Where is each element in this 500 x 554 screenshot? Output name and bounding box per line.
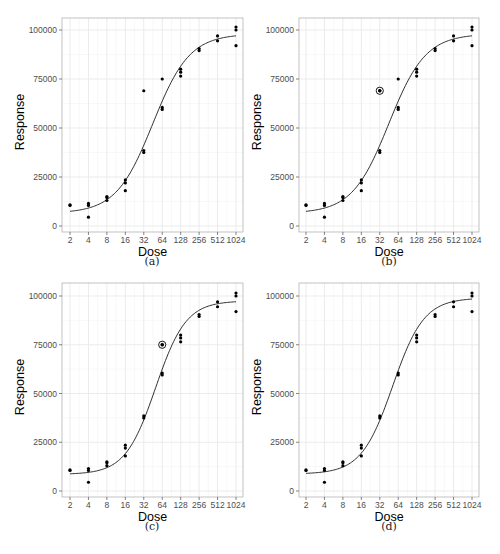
x-tick-label: 128 — [174, 500, 188, 510]
y-axis: 0250005000075000100000 — [266, 25, 299, 231]
x-tick-label: 4 — [322, 500, 327, 510]
x-tick-label: 256 — [192, 235, 206, 245]
data-point — [234, 291, 237, 294]
y-tick-label: 75000 — [33, 74, 57, 84]
data-point — [179, 74, 182, 77]
data-point — [360, 454, 363, 457]
data-point — [415, 336, 418, 339]
x-axis: 2481632641282565121024 — [304, 497, 482, 510]
data-point — [216, 34, 219, 37]
data-point — [415, 333, 418, 336]
y-tick-label: 75000 — [270, 340, 294, 350]
data-point — [378, 416, 381, 419]
data-point — [452, 39, 455, 42]
x-tick-label: 1024 — [227, 235, 246, 245]
x-tick-label: 128 — [174, 235, 188, 245]
data-point — [179, 333, 182, 336]
data-point — [124, 447, 127, 450]
x-tick-label: 16 — [357, 235, 367, 245]
y-tick-label: 50000 — [33, 123, 57, 133]
y-tick-label: 100000 — [29, 25, 58, 35]
data-point — [323, 204, 326, 207]
data-point — [124, 444, 127, 447]
y-tick-label: 100000 — [266, 25, 295, 35]
data-point — [68, 469, 71, 472]
x-tick-label: 16 — [121, 235, 131, 245]
data-point — [415, 74, 418, 77]
data-point — [105, 196, 108, 199]
data-point — [360, 189, 363, 192]
data-point — [87, 481, 90, 484]
data-point — [105, 464, 108, 467]
data-point — [198, 49, 201, 52]
data-point — [397, 108, 400, 111]
data-point — [105, 199, 108, 202]
x-tick-label: 1024 — [227, 500, 246, 510]
x-tick-label: 512 — [210, 235, 224, 245]
x-axis: 2481632641282565121024 — [304, 232, 482, 245]
data-point — [179, 68, 182, 71]
y-tick-label: 50000 — [270, 389, 294, 399]
data-point — [304, 204, 307, 207]
data-point — [470, 294, 473, 297]
data-point — [470, 25, 473, 28]
data-point — [452, 34, 455, 37]
data-point — [341, 464, 344, 467]
plot-c: 0250005000075000100000248163264128256512… — [0, 265, 250, 542]
y-axis-title: Response — [250, 94, 264, 150]
data-point — [161, 77, 164, 80]
data-point — [360, 447, 363, 450]
data-point — [161, 373, 164, 376]
data-point — [68, 204, 71, 207]
x-tick-label: 1024 — [463, 235, 482, 245]
data-point — [234, 294, 237, 297]
data-point — [360, 181, 363, 184]
data-point — [198, 315, 201, 318]
data-point — [434, 49, 437, 52]
x-tick-label: 32 — [139, 235, 149, 245]
x-tick-label: 512 — [446, 500, 460, 510]
x-tick-label: 4 — [86, 235, 91, 245]
y-axis: 0250005000075000100000 — [266, 291, 299, 496]
data-point — [161, 108, 164, 111]
outlier-point — [378, 89, 381, 92]
data-point — [234, 310, 237, 313]
data-point — [341, 196, 344, 199]
data-point — [415, 71, 418, 74]
data-point — [378, 151, 381, 154]
x-tick-label: 128 — [410, 500, 424, 510]
y-tick-label: 50000 — [33, 389, 57, 399]
x-tick-label: 128 — [410, 235, 424, 245]
data-point — [179, 340, 182, 343]
data-point — [179, 336, 182, 339]
y-tick-label: 50000 — [270, 123, 294, 133]
data-point — [179, 71, 182, 74]
x-tick-label: 8 — [341, 500, 346, 510]
data-point — [87, 469, 90, 472]
y-tick-label: 0 — [52, 221, 57, 231]
data-point — [470, 28, 473, 31]
data-point — [105, 461, 108, 464]
y-axis: 0250005000075000100000 — [29, 291, 62, 496]
y-tick-label: 75000 — [270, 74, 294, 84]
x-tick-label: 64 — [157, 500, 167, 510]
data-point — [124, 178, 127, 181]
data-point — [234, 25, 237, 28]
y-tick-label: 0 — [289, 486, 294, 496]
y-tick-label: 0 — [289, 221, 294, 231]
data-point — [216, 39, 219, 42]
y-tick-label: 100000 — [29, 291, 58, 301]
y-tick-label: 0 — [52, 486, 57, 496]
data-point — [415, 340, 418, 343]
plot-d: 0250005000075000100000248163264128256512… — [250, 265, 500, 542]
x-tick-label: 64 — [393, 235, 403, 245]
y-tick-label: 25000 — [270, 172, 294, 182]
data-point — [470, 291, 473, 294]
y-tick-label: 100000 — [266, 291, 295, 301]
x-tick-label: 8 — [341, 235, 346, 245]
x-tick-label: 8 — [105, 235, 110, 245]
y-axis-title: Response — [13, 94, 27, 150]
y-tick-label: 25000 — [33, 172, 57, 182]
data-point — [452, 300, 455, 303]
outlier-point — [161, 343, 164, 346]
